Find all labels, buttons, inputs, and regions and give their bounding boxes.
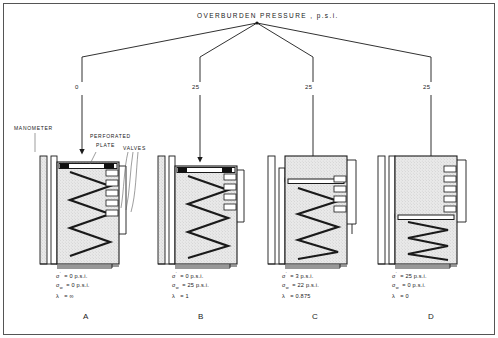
case-c-sigma-w-subscript: w <box>286 285 289 290</box>
case-c-lambda-eq: = <box>290 293 293 299</box>
case-b-lambda: λ = 1 <box>172 293 189 299</box>
case-a-lambda-value: ∞ <box>70 293 74 299</box>
case-a-lambda: λ = ∞ <box>56 293 74 299</box>
case-a-lambda-eq: = <box>64 293 67 299</box>
case-c-lambda: λ = 0.875 <box>282 293 311 299</box>
case-a-sigma-w: σw = 0 p.s.i. <box>56 282 90 290</box>
case-d-lambda: λ = 0 <box>392 293 409 299</box>
figure-canvas: OVERBURDEN PRESSURE , p.s.i. 0 25 25 25 … <box>0 0 498 338</box>
case-b-sigma-w: σw = 25 p.s.i. <box>172 282 209 290</box>
case-d-sigma-eff-value: 25 p.s.i. <box>405 273 426 279</box>
case-letter-a: A <box>83 312 89 321</box>
case-d-sigma-w-eq: = <box>402 282 405 288</box>
case-a-sigma-eff: σ' = 0 p.s.i. <box>56 271 87 279</box>
case-letter-d: D <box>428 312 434 321</box>
case-c-sigma-eff-value: 3 p.s.i. <box>295 273 313 279</box>
case-b-sigma-w-eq: = <box>182 282 185 288</box>
perforated-plate-label-line2: PLATE <box>96 142 115 148</box>
case-b-lambda-eq: = <box>180 293 183 299</box>
case-a-lambda-symbol: λ <box>56 293 59 299</box>
branch-pressure-b: 25 <box>192 84 199 90</box>
case-b-lambda-symbol: λ <box>172 293 175 299</box>
case-d-sigma-eff-prime: ' <box>396 271 397 276</box>
case-b-sigma-eff-prime: ' <box>176 271 177 276</box>
case-c-sigma-w: σw = 22 p.s.i. <box>282 282 319 290</box>
case-d-sigma-w-subscript: w <box>396 285 399 290</box>
valves-label: VALVES <box>123 145 146 151</box>
case-c-sigma-w-value: 22 p.s.i. <box>298 282 319 288</box>
case-a-sigma-w-eq: = <box>66 282 69 288</box>
case-letter-c: C <box>312 312 318 321</box>
case-letter-b: B <box>198 312 204 321</box>
apparatus-a <box>35 133 138 268</box>
case-b-sigma-eff-eq: = <box>180 273 183 279</box>
branch-pressure-a: 0 <box>75 84 79 90</box>
case-c-lambda-symbol: λ <box>282 293 285 299</box>
case-d-sigma-w-value: 0 p.s.i. <box>408 282 426 288</box>
case-d-sigma-eff-eq: = <box>400 273 403 279</box>
case-c-sigma-eff-prime: ' <box>286 271 287 276</box>
valve-leader-a <box>121 152 138 212</box>
apparatus-d <box>378 156 466 268</box>
case-d-lambda-symbol: λ <box>392 293 395 299</box>
perforated-plate-label-line1: PERFORATED <box>90 133 131 139</box>
figure-title: OVERBURDEN PRESSURE , p.s.i. <box>197 12 339 19</box>
apparatus-c <box>268 156 356 268</box>
case-a-sigma-eff-eq: = <box>64 273 67 279</box>
case-a-sigma-eff-prime: ' <box>60 271 61 276</box>
case-d-lambda-value: 0 <box>406 293 409 299</box>
vessel-b <box>175 166 237 264</box>
manometer-label: MANOMETER <box>14 125 53 131</box>
case-b-sigma-eff: σ' = 0 p.s.i. <box>172 271 203 279</box>
case-d-lambda-eq: = <box>400 293 403 299</box>
case-c-lambda-value: 0.875 <box>296 293 311 299</box>
perforated-plate-d <box>398 215 454 220</box>
case-c-sigma-eff: σ' = 3 p.s.i. <box>282 271 313 279</box>
case-c-sigma-eff-eq: = <box>290 273 293 279</box>
branch-pressure-c: 25 <box>305 84 312 90</box>
case-d-sigma-w: σw = 0 p.s.i. <box>392 282 426 290</box>
case-b-lambda-value: 1 <box>186 293 189 299</box>
apparatus-b <box>158 156 244 268</box>
case-a-sigma-w-subscript: w <box>60 285 63 290</box>
case-a-sigma-eff-value: 0 p.s.i. <box>69 273 87 279</box>
branch-pressure-d: 25 <box>423 84 430 90</box>
case-d-sigma-eff: σ' = 25 p.s.i. <box>392 271 427 279</box>
case-b-sigma-w-subscript: w <box>176 285 179 290</box>
case-c-sigma-w-eq: = <box>292 282 295 288</box>
case-b-sigma-eff-value: 0 p.s.i. <box>185 273 203 279</box>
case-b-sigma-w-value: 25 p.s.i. <box>188 282 209 288</box>
case-a-sigma-w-value: 0 p.s.i. <box>72 282 90 288</box>
